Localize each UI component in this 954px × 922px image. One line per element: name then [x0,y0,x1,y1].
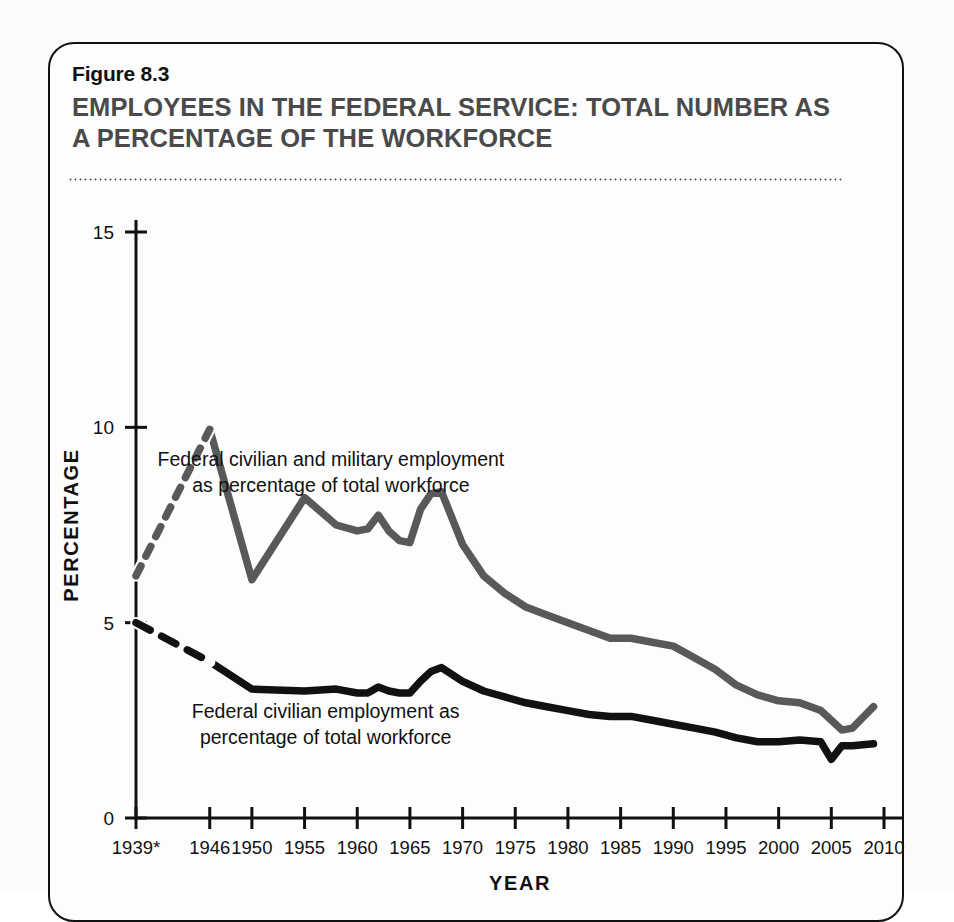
x-tick-label: 1985 [600,837,641,858]
total-series-label: Federal civilian and military employment [157,448,504,470]
y-tick-label: 0 [103,808,114,829]
x-axis-title: YEAR [489,872,551,892]
x-tick-label: 2010 [863,837,904,858]
x-tick-label: 1980 [547,837,588,858]
x-tick-label: 2005 [811,837,852,858]
civilian-series-label: percentage of total workforce [200,726,451,748]
y-tick-label: 15 [93,222,114,243]
x-tick-label: 2000 [758,837,799,858]
y-axis-ticks: 051015 [93,222,147,829]
y-tick-label: 5 [103,613,114,634]
x-tick-label: 1939* [112,837,160,858]
y-tick-label: 10 [93,417,114,438]
annotation-group: Federal civilian and military employment… [157,448,504,748]
civilian-series-label: Federal civilian employment as [192,700,460,722]
x-axis-ticks: 1939*19461950195519601965197019751980198… [112,807,905,858]
x-tick-label: 1950 [231,837,272,858]
x-tick-label: 1990 [653,837,694,858]
x-tick-label: 1975 [495,837,536,858]
x-tick-label: 1960 [337,837,378,858]
series-dashed-1 [136,623,210,662]
x-tick-label: 1970 [442,837,483,858]
y-axis-title: PERCENTAGE [60,448,82,601]
x-tick-label: 1946 [189,837,230,858]
x-tick-label: 1965 [389,837,430,858]
x-tick-label: 1995 [705,837,746,858]
x-tick-label: 1955 [284,837,325,858]
total-series-label: as percentage of total workforce [192,474,470,496]
